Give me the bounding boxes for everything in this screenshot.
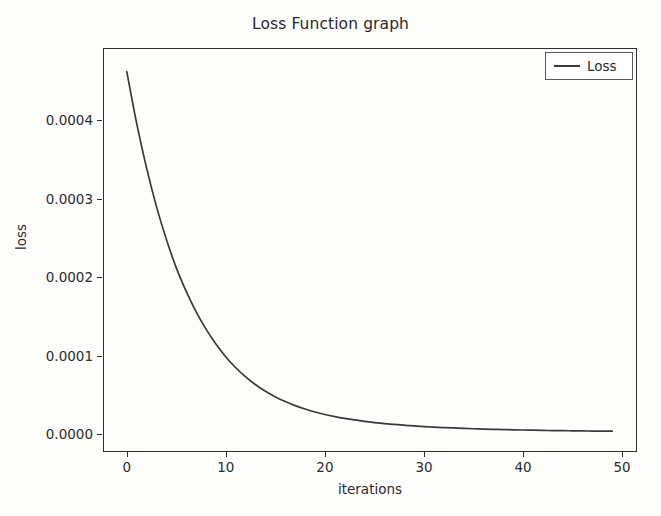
chart-title: Loss Function graph: [0, 15, 661, 33]
x-tick-label: 10: [217, 459, 234, 475]
x-tick-mark: [622, 452, 623, 457]
x-tick-mark: [127, 452, 128, 457]
y-tick-mark: [97, 356, 102, 357]
x-tick-mark: [325, 452, 326, 457]
x-tick-mark: [523, 452, 524, 457]
x-tick-label: 50: [614, 459, 631, 475]
y-tick-label: 0.0000: [46, 426, 93, 442]
x-axis-label: iterations: [103, 481, 637, 497]
x-tick-label: 30: [415, 459, 432, 475]
x-tick-label: 20: [316, 459, 333, 475]
y-tick-label: 0.0002: [46, 269, 93, 285]
y-tick-mark: [97, 277, 102, 278]
chart-figure: Loss Function graph loss 0.00000.00010.0…: [0, 0, 661, 516]
y-tick-label: 0.0004: [46, 112, 93, 128]
legend-line-swatch: [554, 65, 580, 67]
y-axis-label: loss: [13, 224, 29, 250]
plot-canvas: [103, 48, 637, 452]
y-tick-mark: [97, 199, 102, 200]
x-tick-mark: [226, 452, 227, 457]
x-tick-label: 0: [122, 459, 131, 475]
loss-series-line: [127, 72, 612, 432]
y-tick-mark: [97, 434, 102, 435]
legend-label-loss: Loss: [587, 58, 617, 74]
y-tick-mark: [97, 120, 102, 121]
chart-legend: Loss: [545, 52, 633, 80]
y-tick-label: 0.0003: [46, 191, 93, 207]
x-tick-label: 40: [514, 459, 531, 475]
x-tick-mark: [424, 452, 425, 457]
y-tick-label: 0.0001: [46, 348, 93, 364]
